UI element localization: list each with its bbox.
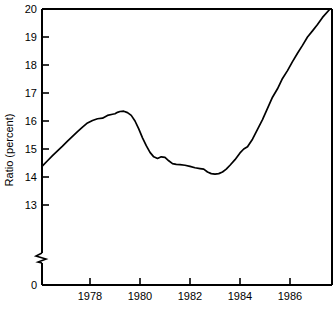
y-tick-label-zero: 0 [31,279,37,291]
x-axis-ticks [90,278,290,285]
chart-figure: 20 19 18 17 16 15 14 13 0 1978 1980 1982… [0,0,336,309]
y-tick-label-17: 17 [25,87,37,99]
y-tick-label-19: 19 [25,31,37,43]
x-tick-label-1984: 1984 [228,290,252,302]
y-axis-ticks [42,37,49,205]
y-axis-tick-labels: 20 19 18 17 16 15 14 13 0 [25,3,37,291]
y-tick-label-13: 13 [25,199,37,211]
x-tick-label-1982: 1982 [178,290,202,302]
y-tick-label-18: 18 [25,59,37,71]
y-axis-break-icon [36,253,46,263]
x-axis-tick-labels: 1978 1980 1982 1984 1986 [78,290,302,302]
y-tick-label-16: 16 [25,115,37,127]
y-axis-title: Ratio (percent) [3,114,15,187]
line-chart: 20 19 18 17 16 15 14 13 0 1978 1980 1982… [0,0,336,309]
plot-frame [36,9,332,285]
x-tick-label-1986: 1986 [278,290,302,302]
y-tick-label-15: 15 [25,143,37,155]
y-tick-label-20: 20 [25,3,37,15]
y-tick-label-14: 14 [25,171,37,183]
data-series-line [43,9,331,174]
x-tick-label-1980: 1980 [128,290,152,302]
x-tick-label-1978: 1978 [78,290,102,302]
